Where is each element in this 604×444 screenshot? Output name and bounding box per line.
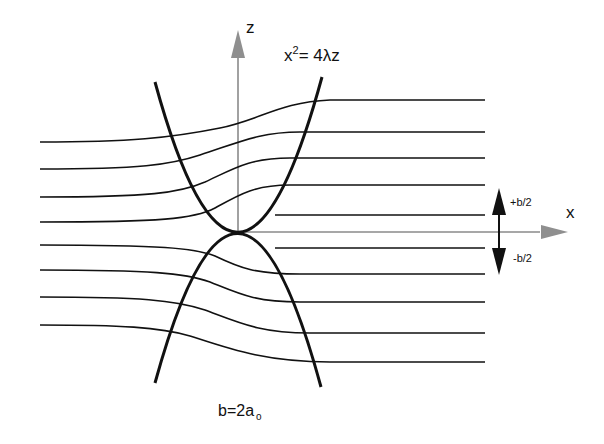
b-equation-main: b=2a: [218, 402, 254, 419]
streamline: [40, 132, 485, 169]
b-equation: b=2ao: [218, 402, 262, 422]
streamline: [40, 185, 485, 222]
x-axis: [238, 225, 568, 239]
streamline: [40, 325, 485, 362]
b-equation-subscript: o: [256, 411, 262, 422]
equation-exponent: 2: [293, 44, 299, 56]
arrow-down-icon: [492, 248, 506, 275]
z-axis-arrow-icon: [231, 30, 245, 58]
minus-half-b-label: -b/2: [513, 252, 532, 264]
arrow-up-icon: [492, 188, 506, 215]
equation-base: x: [284, 46, 293, 65]
equation-rest: = 4λz: [299, 46, 340, 65]
lower-parabola: [155, 233, 321, 387]
streamline: [40, 158, 485, 197]
x-axis-arrow-icon: [541, 225, 568, 239]
streamlines-upper: [40, 100, 485, 222]
parabola-streamline-diagram: [0, 0, 604, 444]
z-axis: [231, 30, 245, 232]
z-axis-label: z: [246, 18, 255, 38]
parabola-equation: x2= 4λz: [284, 46, 340, 66]
plus-half-b-label: +b/2: [510, 196, 532, 208]
x-axis-label: x: [566, 203, 575, 223]
streamlines-lower: [40, 245, 485, 362]
